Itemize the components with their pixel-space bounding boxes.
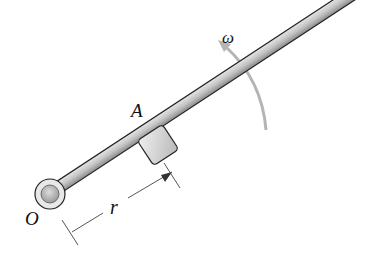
- rod-diagram: [0, 0, 389, 258]
- label-a: A: [131, 100, 143, 122]
- pivot-joint: [35, 179, 65, 209]
- label-o: O: [25, 208, 39, 230]
- rod: [47, 0, 384, 198]
- label-omega: ω: [222, 28, 234, 48]
- label-r: r: [110, 196, 118, 219]
